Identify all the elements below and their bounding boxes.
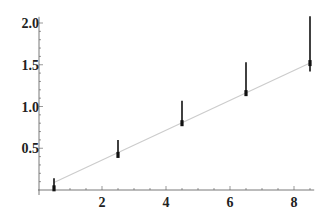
point-marker (180, 120, 183, 126)
chart: 24680.51.01.52.0 (0, 0, 333, 216)
point-marker (52, 185, 55, 191)
tick-labels: 24680.51.01.52.0 (22, 16, 298, 210)
data-point (244, 62, 247, 96)
data-point (180, 101, 183, 127)
data-point (308, 16, 311, 71)
x-tick-label: 8 (291, 195, 298, 210)
y-tick-label: 2.0 (22, 16, 40, 31)
data-point (116, 140, 119, 158)
point-marker (308, 60, 311, 66)
axes (38, 17, 314, 195)
x-tick-label: 4 (163, 195, 170, 210)
x-tick-label: 6 (227, 195, 234, 210)
point-marker (116, 152, 119, 158)
y-tick-label: 1.0 (22, 100, 40, 115)
x-tick-label: 2 (99, 195, 106, 210)
data-point (52, 178, 55, 191)
y-tick-label: 0.5 (22, 141, 40, 156)
y-tick-label: 1.5 (22, 58, 40, 73)
point-marker (244, 90, 247, 96)
